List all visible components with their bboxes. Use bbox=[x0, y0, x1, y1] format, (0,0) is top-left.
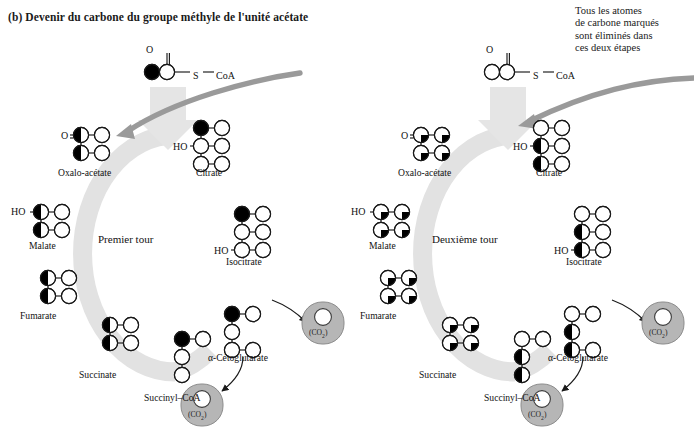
acetyl-coa-2-carbonyl-carbon bbox=[499, 64, 514, 79]
oxaloacetate-2-c00 bbox=[413, 127, 428, 142]
acetyl-coa-2-sulfur: S bbox=[533, 70, 539, 81]
label-succinyl-coa-1: Succinyl–CoA bbox=[144, 392, 201, 403]
label-malate-2: Malate bbox=[369, 240, 396, 251]
label-ketoglutarate-2: α-Cétoglutarate bbox=[548, 352, 608, 363]
sidegroup-malate-1-HO: HO bbox=[11, 206, 25, 217]
oxaloacetate-2-c01 bbox=[434, 127, 449, 142]
label-succinate-1: Succinate bbox=[79, 369, 116, 380]
succinate-2-c10 bbox=[442, 335, 457, 350]
malate-2-c10 bbox=[373, 222, 388, 237]
acetyl-coa-2-methyl-carbon bbox=[484, 64, 499, 79]
isocitrate-1-c01 bbox=[255, 206, 270, 221]
fumarate-2-c01 bbox=[401, 270, 416, 285]
co2-label-1a: (CO2) bbox=[309, 328, 327, 339]
succinate-1-c11 bbox=[123, 335, 138, 350]
acetyl-coa-1-methyl-carbon bbox=[144, 64, 159, 79]
figure-canvas: (b) Devenir du carbone du groupe méthyle… bbox=[0, 0, 694, 430]
malate-1-c00 bbox=[33, 204, 48, 219]
malate-2-c00 bbox=[373, 204, 388, 219]
isocitrate-2-c10 bbox=[574, 224, 589, 239]
sidegroup-oxaloacetate-1-O: O bbox=[61, 130, 68, 141]
sidegroup-citrate-2-HO: HO bbox=[513, 141, 527, 152]
label-citrate-2: Citrate bbox=[536, 167, 562, 178]
succinyl-coa-2-c10 bbox=[514, 349, 529, 364]
oxaloacetate-2-c10 bbox=[413, 145, 428, 160]
succinyl-coa-1-c01 bbox=[195, 331, 210, 346]
fumarate-1-c11 bbox=[61, 288, 76, 303]
sidegroup-citrate-1-HO: HO bbox=[173, 141, 187, 152]
label-malate-1: Malate bbox=[29, 240, 56, 251]
malate-2-c01 bbox=[394, 204, 409, 219]
citrate-2-c10 bbox=[533, 138, 548, 153]
label-isocitrate-1: Isocitrate bbox=[226, 256, 262, 267]
succinyl-coa-2-c20 bbox=[514, 367, 529, 382]
citrate-2-c11 bbox=[554, 138, 569, 153]
label-oxaloacetate-2: Oxalo-acétate bbox=[398, 167, 451, 178]
succinyl-coa-1-c00 bbox=[174, 331, 189, 346]
isocitrate-1-c11 bbox=[255, 224, 270, 239]
ketoglutarate-1-c01 bbox=[245, 306, 260, 321]
isocitrate-2-c01 bbox=[595, 206, 610, 221]
label-fumarate-1: Fumarate bbox=[20, 310, 56, 321]
malate-1-c11 bbox=[54, 222, 69, 237]
acetyl-coa-2-oxygen: O bbox=[486, 44, 493, 55]
ketoglutarate-2-c10 bbox=[564, 324, 579, 339]
isocitrate-1-c10 bbox=[234, 224, 249, 239]
succinyl-coa-2-c01 bbox=[535, 331, 550, 346]
co2-label-1b: (CO2) bbox=[188, 410, 206, 421]
succinyl-coa-1-c20 bbox=[174, 367, 189, 382]
citrate-1-c00 bbox=[193, 120, 208, 135]
label-ketoglutarate-1: α-Cétoglutarate bbox=[208, 352, 268, 363]
page-title: (b) Devenir du carbone du groupe méthyle… bbox=[8, 11, 308, 23]
oxaloacetate-2-c11 bbox=[434, 145, 449, 160]
fumarate-1-c01 bbox=[61, 270, 76, 285]
label-isocitrate-2: Isocitrate bbox=[566, 256, 602, 267]
ketoglutarate-1-c10 bbox=[224, 324, 239, 339]
fumarate-2-c11 bbox=[401, 288, 416, 303]
ketoglutarate-2-c00 bbox=[564, 306, 579, 321]
label-citrate-1: Citrate bbox=[196, 167, 222, 178]
ketoglutarate-1-c00 bbox=[224, 306, 239, 321]
isocitrate-2-c00 bbox=[574, 206, 589, 221]
succinate-1-c10 bbox=[102, 335, 117, 350]
ketoglutarate-2-c01 bbox=[585, 306, 600, 321]
isocitrate-2-c11 bbox=[595, 224, 610, 239]
annotation-text: Tous les atomes de carbone marqués sont … bbox=[575, 5, 659, 55]
malate-1-c01 bbox=[54, 204, 69, 219]
succinate-1-c01 bbox=[123, 317, 138, 332]
label-fumarate-2: Fumarate bbox=[360, 310, 396, 321]
label-succinate-2: Succinate bbox=[419, 369, 456, 380]
succinate-2-c00 bbox=[442, 317, 457, 332]
co2-label-2b: (CO2) bbox=[528, 410, 546, 421]
succinate-2-c01 bbox=[463, 317, 478, 332]
fumarate-2-c10 bbox=[380, 288, 395, 303]
acetyl-coa-1-carbonyl-carbon bbox=[159, 64, 174, 79]
sidegroup-oxaloacetate-2-O: O bbox=[401, 130, 408, 141]
citrate-1-c11 bbox=[214, 138, 229, 153]
citrate-1-c01 bbox=[214, 120, 229, 135]
oxaloacetate-1-c01 bbox=[94, 127, 109, 142]
acetyl-coa-1-coa: CoA bbox=[216, 70, 235, 81]
isocitrate-1-c00 bbox=[234, 206, 249, 221]
fumarate-1-c00 bbox=[40, 270, 55, 285]
oxaloacetate-1-c10 bbox=[73, 145, 88, 160]
succinyl-coa-1-c10 bbox=[174, 349, 189, 364]
oxaloacetate-1-c00 bbox=[73, 127, 88, 142]
fumarate-2-c00 bbox=[380, 270, 395, 285]
fumarate-1-c10 bbox=[40, 288, 55, 303]
cycle-title-premier: Premier tour bbox=[98, 233, 153, 245]
oxaloacetate-1-c11 bbox=[94, 145, 109, 160]
cycle-title-deuxieme: Deuxième tour bbox=[432, 233, 498, 245]
sidegroup-isocitrate-1-HO: HO bbox=[214, 245, 228, 256]
acetyl-coa-1-sulfur: S bbox=[193, 70, 199, 81]
diagram-svg bbox=[0, 0, 694, 430]
malate-1-c10 bbox=[33, 222, 48, 237]
co2-label-2a: (CO2) bbox=[649, 328, 667, 339]
succinate-1-c00 bbox=[102, 317, 117, 332]
malate-2-c11 bbox=[394, 222, 409, 237]
acetyl-coa-2-coa: CoA bbox=[556, 70, 575, 81]
label-oxaloacetate-1: Oxalo-acétate bbox=[58, 167, 111, 178]
sidegroup-malate-2-HO: HO bbox=[351, 206, 365, 217]
citrate-1-c10 bbox=[193, 138, 208, 153]
label-succinyl-coa-2: Succinyl–CoA bbox=[484, 392, 541, 403]
